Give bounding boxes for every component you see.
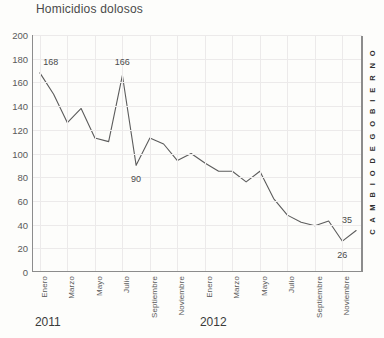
- gridline-horizontal: [33, 154, 362, 155]
- gridline-vertical: [205, 35, 206, 271]
- y-axis-tick-label: 20: [17, 243, 28, 254]
- y-axis-tick-label: 120: [12, 124, 28, 135]
- gridline-horizontal: [33, 35, 362, 36]
- gridline-vertical: [95, 35, 96, 271]
- gridline-horizontal: [33, 130, 362, 131]
- data-point-label: 35: [342, 215, 352, 225]
- y-axis-tick-label: 60: [17, 195, 28, 206]
- gridline-vertical: [122, 35, 123, 271]
- x-axis-tick-label: Marzo: [67, 276, 76, 299]
- gridline-horizontal: [33, 106, 362, 107]
- gridline-horizontal: [33, 177, 362, 178]
- gridline-vertical: [150, 35, 151, 271]
- gridline-vertical: [260, 35, 261, 271]
- x-axis-tick-label: Septiembre: [150, 276, 159, 318]
- y-axis-tick-label: 200: [12, 30, 28, 41]
- gridline-vertical: [342, 35, 343, 271]
- gridline-vertical: [177, 35, 178, 271]
- x-axis-tick-label: Septiembre: [315, 276, 324, 318]
- gridline-horizontal: [33, 225, 362, 226]
- gridline-horizontal: [33, 82, 362, 83]
- data-point-label: 168: [43, 57, 58, 67]
- x-axis-tick-label: Enero: [205, 276, 214, 298]
- data-point-label: 90: [131, 174, 141, 184]
- gridline-horizontal: [33, 248, 362, 249]
- gridline-horizontal: [33, 59, 362, 60]
- y-axis-tick-label: 180: [12, 53, 28, 64]
- data-point-label: 26: [337, 250, 347, 260]
- y-axis-tick-label: 40: [17, 219, 28, 230]
- cambio-de-gobierno-divider: [361, 36, 363, 272]
- gridline-vertical: [232, 35, 233, 271]
- chart-root: Homicidios dolosos 200180160140120100806…: [0, 0, 384, 338]
- gridline-vertical: [40, 35, 41, 271]
- x-axis-tick-label: Mayo: [260, 276, 269, 296]
- gridline-vertical: [315, 35, 316, 271]
- x-axis-tick-label: Enero: [40, 276, 49, 298]
- y-axis-tick-label: 80: [17, 172, 28, 183]
- y-axis-tick-label: 160: [12, 77, 28, 88]
- x-axis-year-label: 2012: [200, 315, 227, 329]
- x-axis-tick-label: Noviembre: [177, 276, 186, 316]
- gridline-vertical: [287, 35, 288, 271]
- x-axis-year-label: 2011: [35, 315, 61, 329]
- data-point-label: 166: [115, 57, 130, 67]
- cambio-de-gobierno-label: C A M B I O D E G O B I E R N O: [368, 48, 377, 235]
- x-axis-tick-label: Julio: [287, 276, 296, 293]
- y-axis-tick-label: 140: [12, 101, 28, 112]
- y-axis-tick-label: 0: [23, 267, 28, 278]
- y-axis-tick-label: 100: [12, 148, 28, 159]
- x-axis-tick-label: Julio: [122, 276, 131, 293]
- x-axis-tick-label: Marzo: [232, 276, 241, 299]
- plot-area: 200180160140120100806040200EneroMarzoMay…: [32, 35, 362, 272]
- x-axis-tick-label: Noviembre: [342, 276, 351, 316]
- gridline-vertical: [67, 35, 68, 271]
- x-axis-tick-label: Mayo: [95, 276, 104, 296]
- chart-title: Homicidios dolosos: [36, 2, 143, 16]
- gridline-horizontal: [33, 201, 362, 202]
